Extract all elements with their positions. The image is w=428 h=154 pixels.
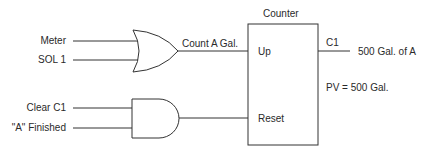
counter-up-label: Up [258, 46, 271, 58]
input-meter: Meter [20, 35, 66, 47]
input-a-finished: "A" Finished [0, 122, 66, 134]
input-sol1: SOL 1 [20, 54, 66, 66]
and-gate-icon [132, 99, 179, 138]
counter-title: Counter [263, 8, 299, 20]
input-clear-c1: Clear C1 [0, 102, 66, 114]
counter-box [248, 24, 318, 145]
counter-reset-label: Reset [258, 113, 284, 125]
or-gate-icon [133, 30, 178, 72]
counter-output-tag: C1 [326, 37, 339, 49]
or-output-label: Count A Gal. [182, 38, 238, 50]
counter-preset: PV = 500 Gal. [326, 82, 389, 94]
counter-output-label: 500 Gal. of A [358, 46, 416, 58]
